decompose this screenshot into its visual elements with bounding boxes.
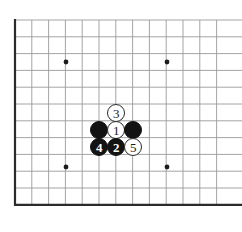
stone-black-right[interactable] <box>124 121 142 139</box>
stone-white-3[interactable]: 3 <box>107 104 125 122</box>
stone-black-2[interactable]: 2 <box>107 138 125 156</box>
go-board-diagram: 31425 <box>0 0 242 232</box>
stone-move-number: 3 <box>113 107 119 120</box>
stone-layer: 31425 <box>0 0 242 232</box>
stone-move-number: 1 <box>113 124 119 137</box>
stone-white-1[interactable]: 1 <box>107 121 125 139</box>
stone-white-5[interactable]: 5 <box>124 138 142 156</box>
stone-black-4[interactable]: 4 <box>90 138 108 156</box>
stone-move-number: 5 <box>130 141 136 154</box>
stone-black-left[interactable] <box>90 121 108 139</box>
stone-move-number: 4 <box>96 141 102 154</box>
stone-move-number: 2 <box>113 141 119 154</box>
